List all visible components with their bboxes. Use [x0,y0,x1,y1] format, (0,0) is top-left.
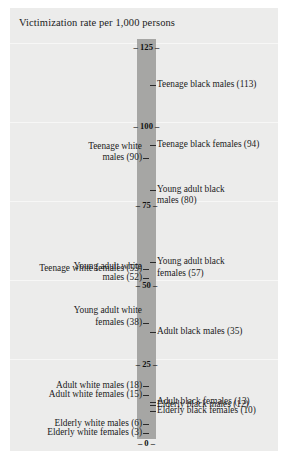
data-label-elderly-black-females: Elderly black females (10) [157,405,256,416]
data-label-young-adult-white-females: Young adult white females (38) [74,305,142,327]
leader-dash [143,158,149,159]
leader-dash [150,145,156,146]
leader-dash [150,405,156,406]
axis-tick-25: – 25 – [113,360,180,368]
data-label-teenage-black-females: Teenage black females (94) [157,139,259,150]
data-label-adult-white-females: Adult white females (15) [49,389,142,400]
data-label-young-adult-black-females: Young adult black females (57) [157,256,225,278]
axis-tick-label: 50 [142,280,151,290]
chart-title: Victimization rate per 1,000 persons [19,17,175,28]
axis-tick-125: – 125 – [113,43,180,51]
data-label-young-adult-white-males: Young adult white males (52) [74,261,142,283]
leader-dash [150,411,156,412]
leader-dash [150,262,156,263]
data-label-elderly-white-females: Elderly white females (3) [47,427,142,438]
leader-dash [143,433,149,434]
leader-dash [143,269,149,270]
axis-tick-100: – 100 – [113,122,180,130]
axis-tick-label: 100 [140,121,153,131]
axis-tick-label: 75 [142,200,151,210]
axis-tick-0: – 0 – [113,439,180,447]
data-label-young-adult-black-males: Young adult black males (80) [157,184,225,206]
leader-dash [150,332,156,333]
axis-tick-label: 125 [140,42,153,52]
data-label-teenage-white-males: Teenage white males (90) [88,141,142,163]
axis-tick-label: 25 [142,359,151,369]
data-label-adult-black-males: Adult black males (35) [157,326,242,337]
leader-dash [143,323,149,324]
leader-dash [143,278,149,279]
leader-dash [150,190,156,191]
axis-tick-label: 0 [144,438,148,448]
leader-dash [143,424,149,425]
leader-dash [150,402,156,403]
leader-dash [143,386,149,387]
leader-dash [150,85,156,86]
leader-dash [143,395,149,396]
data-label-teenage-black-males: Teenage black males (113) [157,79,256,90]
